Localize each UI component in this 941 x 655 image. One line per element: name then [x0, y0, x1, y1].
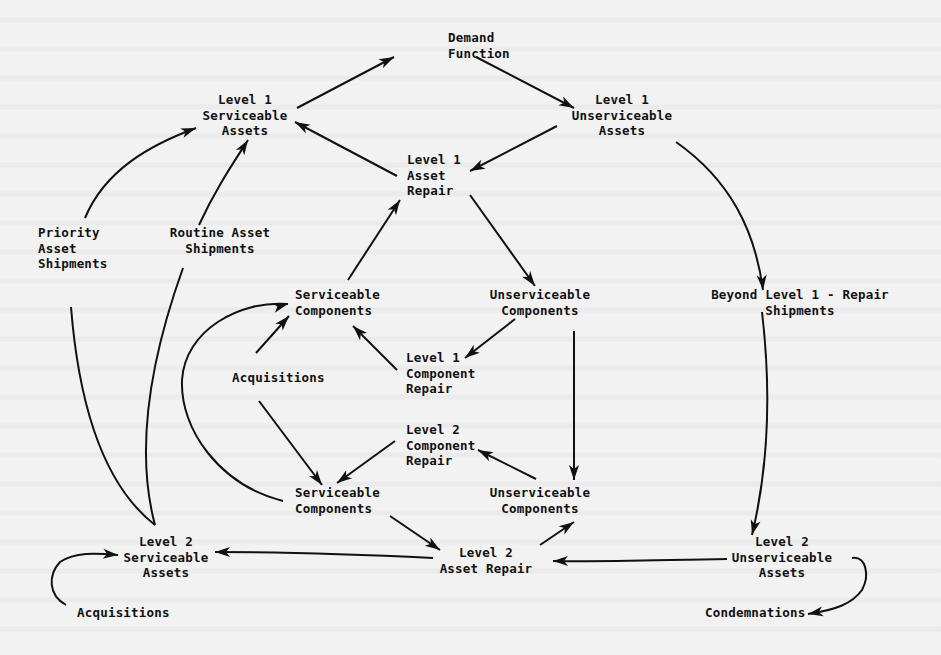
node-l2-asset-repair: Level 2Asset Repair: [440, 545, 533, 576]
edge-serviceable-components-bottom-to-serviceable-components-top: [182, 304, 288, 501]
node-label-line: Shipments: [38, 256, 108, 271]
flow-diagram: DemandFunctionLevel 1ServiceableAssetsLe…: [0, 0, 941, 655]
arrowhead-icon: [293, 118, 311, 134]
node-label-line: Level 2: [459, 545, 513, 560]
edge-acquisitions-mid-to-serviceable-components-bottom: [259, 401, 322, 485]
node-label-line: Components: [295, 501, 372, 516]
node-label-line: Shipments: [185, 241, 255, 256]
node-label-line: Routine Asset: [170, 225, 270, 240]
node-label-line: Level 2: [406, 422, 460, 437]
node-l2-serviceable-assets: Level 2ServiceableAssets: [124, 534, 209, 580]
node-label-line: Component: [406, 366, 476, 381]
edge-demand-function-to-l1-unserviceable-assets: [476, 57, 574, 108]
edge-serviceable-components-top-to-l1-asset-repair: [348, 200, 400, 280]
node-label-line: Assets: [143, 565, 189, 580]
node-label-line: Unserviceable: [490, 485, 591, 500]
node-acquisitions-bottom: Acquisitions: [77, 605, 170, 620]
edge-l1-unserviceable-assets-to-l1-asset-repair: [470, 126, 557, 171]
arrowhead-layer: [103, 53, 824, 619]
node-label-line: Asset: [407, 168, 446, 183]
node-label-line: Demand: [448, 30, 494, 45]
edge-l2-unserviceable-assets-to-condemnations: [808, 558, 866, 614]
edge-layer: [52, 57, 866, 614]
edge-l2-asset-repair-to-l2-serviceable-assets: [215, 552, 433, 558]
node-label-line: Components: [295, 303, 372, 318]
arrowhead-icon: [468, 160, 486, 176]
node-label-line: Function: [448, 46, 510, 61]
node-beyond-l1-repair-shipments: Beyond Level 1 - RepairShipments: [711, 287, 889, 318]
edge-l2-serviceable-assets-to-routine-asset-shipments: [146, 268, 183, 525]
node-label-line: Level 2: [139, 534, 193, 549]
node-label-line: Shipments: [765, 303, 835, 318]
edge-beyond-l1-repair-shipments-to-l2-unserviceable-assets: [752, 312, 767, 535]
node-label-line: Acquisitions: [77, 605, 170, 620]
node-acquisitions-mid: Acquisitions: [232, 370, 325, 385]
node-label-line: Unserviceable: [732, 550, 833, 565]
edge-priority-asset-shipments-to-l1-serviceable-assets: [85, 128, 196, 218]
node-label-line: Unserviceable: [572, 108, 673, 123]
node-label-line: Level 1: [406, 350, 460, 365]
node-label-line: Repair: [406, 381, 453, 396]
node-label-line: Asset Repair: [440, 561, 533, 576]
node-unserviceable-components-top: UnserviceableComponents: [490, 287, 591, 318]
node-label-line: Serviceable: [295, 287, 380, 302]
edge-l2-serviceable-assets-to-priority-asset-shipments: [71, 307, 155, 525]
arrowhead-icon: [378, 53, 396, 69]
node-label-line: Unserviceable: [490, 287, 591, 302]
node-label-line: Level 1: [218, 92, 272, 107]
node-l1-unserviceable-assets: Level 1UnserviceableAssets: [572, 92, 673, 138]
edge-l1-serviceable-assets-to-demand-function: [297, 57, 394, 108]
node-label-line: Asset: [38, 241, 77, 256]
node-label-line: Assets: [222, 123, 268, 138]
node-label-line: Beyond Level 1 - Repair: [711, 287, 889, 302]
node-l2-component-repair: Level 2ComponentRepair: [406, 422, 476, 468]
arrowhead-icon: [272, 299, 289, 313]
node-serviceable-components-bottom: ServiceableComponents: [295, 485, 380, 516]
node-label-line: Serviceable: [295, 485, 380, 500]
node-label-line: Level 2: [755, 534, 809, 549]
node-label-line: Serviceable: [124, 550, 209, 565]
edge-l1-asset-repair-to-l1-serviceable-assets: [295, 122, 397, 176]
arrowhead-icon: [388, 197, 405, 215]
edge-l2-unserviceable-assets-to-l2-asset-repair: [553, 559, 727, 561]
node-label-line: Acquisitions: [232, 370, 325, 385]
node-label-line: Repair: [406, 453, 453, 468]
node-label-line: Level 1: [595, 92, 649, 107]
node-condemnations: Condemnations: [705, 605, 805, 620]
node-label-line: Condemnations: [705, 605, 805, 620]
arrowhead-icon: [559, 518, 577, 535]
node-l2-unserviceable-assets: Level 2UnserviceableAssets: [732, 534, 833, 580]
edge-l1-asset-repair-to-unserviceable-components-top: [470, 195, 535, 286]
node-demand-function: DemandFunction: [448, 30, 510, 61]
arrowhead-icon: [425, 537, 443, 554]
node-label-line: Components: [501, 501, 578, 516]
edge-acquisitions-bottom-to-l2-serviceable-assets: [52, 554, 118, 605]
edge-routine-asset-shipments-to-l1-serviceable-assets: [199, 140, 248, 225]
edge-l1-unserviceable-assets-to-beyond-l1-repair-shipments: [676, 142, 763, 290]
node-unserviceable-components-bottom: UnserviceableComponents: [490, 485, 591, 516]
node-label-line: Priority: [38, 225, 100, 240]
node-label-line: Serviceable: [203, 108, 288, 123]
node-label-line: Level 1: [407, 152, 461, 167]
node-label-line: Assets: [599, 123, 645, 138]
arrowhead-icon: [180, 123, 198, 138]
node-label-line: Component: [406, 438, 476, 453]
node-label-line: Repair: [407, 183, 454, 198]
node-priority-asset-shipments: PriorityAssetShipments: [38, 225, 108, 271]
node-l1-asset-repair: Level 1AssetRepair: [407, 152, 461, 198]
node-routine-asset-shipments: Routine AssetShipments: [170, 225, 270, 256]
arrowhead-icon: [476, 446, 494, 462]
node-label-line: Components: [501, 303, 578, 318]
node-l1-serviceable-assets: Level 1ServiceableAssets: [203, 92, 288, 138]
node-label-line: Assets: [759, 565, 805, 580]
node-serviceable-components-top: ServiceableComponents: [295, 287, 380, 318]
arrowhead-icon: [236, 137, 252, 155]
